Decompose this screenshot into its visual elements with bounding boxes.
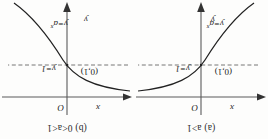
panel-b-x-axis-label: x bbox=[96, 103, 100, 113]
panel-a-point-label: (0,1) bbox=[215, 67, 232, 77]
panel-a-asymptote-label: y=1 bbox=[175, 64, 190, 74]
panel-b-plot: x O (0,1) y=1 y=ax y bbox=[0, 0, 134, 117]
panel-b-curve-label: y=ax bbox=[51, 19, 68, 31]
panel-b-title: (b) 0<a<1 bbox=[0, 123, 134, 133]
panel-b-asymptote-label: y=1 bbox=[41, 64, 56, 74]
panel-a-plot: x O (0,1) y=1 y=ax y bbox=[134, 0, 268, 117]
panel-b-point-label: (0,1) bbox=[81, 67, 98, 77]
panel-b-exponential-decay: (b) 0<a<1 x O (0,1) y=1 y=ax y bbox=[0, 0, 134, 139]
panel-a-y-axis-label: y bbox=[211, 15, 215, 25]
panel-a-curve-exponent: x bbox=[207, 24, 210, 31]
panel-b-curve-exponent: x bbox=[51, 24, 54, 31]
panel-b-curve-base: y=a bbox=[53, 19, 68, 29]
panel-a-curve-label: y=ax bbox=[207, 19, 224, 31]
panel-a-exponential-growth: (a) a>1 x O (0,1) y=1 y=ax y bbox=[134, 0, 268, 139]
panel-b-origin-label: O bbox=[58, 103, 65, 113]
panel-a-x-axis-label: x bbox=[230, 103, 234, 113]
exponential-function-figure: (a) a>1 x O (0,1) y=1 y=ax y bbox=[0, 0, 268, 139]
panel-b-y-axis-label: y bbox=[84, 15, 88, 25]
panel-a-origin-label: O bbox=[192, 103, 199, 113]
panel-a-title: (a) a>1 bbox=[134, 123, 268, 133]
